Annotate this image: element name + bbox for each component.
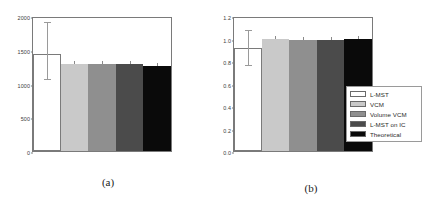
bar-top-tick <box>303 37 304 40</box>
legend-item[interactable]: L-MST <box>350 89 419 99</box>
error-bar-cap <box>44 79 51 80</box>
legend-swatch-icon <box>350 131 366 137</box>
y-axis-tick-mark <box>232 85 235 86</box>
y-axis-tick-label: 0.2 <box>223 128 231 134</box>
legend-swatch-icon <box>350 121 366 127</box>
panel-a: 0500100015002000 (a) <box>2 0 202 220</box>
plot-area-a: 0500100015002000 <box>32 17 172 152</box>
bar-top-tick <box>331 37 332 40</box>
y-axis-tick-label: 1500 <box>18 49 30 55</box>
legend-item-label: VCM <box>370 101 384 108</box>
error-bar-cap <box>245 30 252 31</box>
panel-b-caption: (b) <box>211 182 411 194</box>
error-bar-cap <box>44 22 51 23</box>
legend-swatch-icon <box>350 111 366 117</box>
bar-top-tick <box>74 61 75 64</box>
legend-item[interactable]: L-MST on IC <box>350 119 419 129</box>
y-axis-tick-mark <box>232 18 235 19</box>
y-axis-tick-mark <box>31 85 34 86</box>
bar-top-tick <box>102 61 103 64</box>
y-axis-tick-label: 1000 <box>18 83 30 89</box>
bar-top-tick <box>358 36 359 39</box>
y-axis-tick-mark <box>31 51 34 52</box>
y-axis-tick-mark <box>232 108 235 109</box>
bar <box>289 40 317 151</box>
error-bar-cap <box>245 65 252 66</box>
legend-item[interactable]: Volume VCM <box>350 109 419 119</box>
legend-item-label: Theoretical <box>370 131 401 138</box>
bar-group-a <box>33 18 171 151</box>
y-axis-tick-label: 0.4 <box>223 105 231 111</box>
bar <box>88 64 116 151</box>
panel-a-caption: (a) <box>8 176 208 188</box>
y-axis-tick-mark <box>232 130 235 131</box>
y-axis-tick-mark <box>31 18 34 19</box>
bar <box>143 66 171 151</box>
y-axis-tick-label: 0.6 <box>223 83 231 89</box>
y-axis-tick-label: 500 <box>21 116 30 122</box>
legend-swatch-icon <box>350 91 366 97</box>
error-bar <box>47 23 48 80</box>
bar-top-tick <box>157 63 158 66</box>
y-axis-tick-mark <box>31 119 34 120</box>
y-axis-tick-label: 0.8 <box>223 60 231 66</box>
figure-container: 0500100015002000 (a) 0.00.20.40.60.81.01… <box>0 0 427 220</box>
y-axis-tick-mark <box>232 153 235 154</box>
bar <box>262 39 290 151</box>
legend-item-label: L-MST <box>370 91 389 98</box>
legend-item-label: Volume VCM <box>370 111 407 118</box>
y-axis-tick-label: 1.0 <box>223 38 231 44</box>
y-axis-tick-mark <box>31 153 34 154</box>
y-axis-tick-label: 2000 <box>18 15 30 21</box>
bar-top-tick <box>130 61 131 64</box>
legend: L-MSTVCMVolume VCML-MST on ICTheoretical <box>346 86 422 142</box>
legend-item-label: L-MST on IC <box>370 121 406 128</box>
error-bar <box>248 31 249 66</box>
y-axis-tick-label: 1.2 <box>223 15 231 21</box>
legend-item[interactable]: Theoretical <box>350 129 419 139</box>
bar <box>61 64 89 151</box>
bar <box>116 64 144 151</box>
y-axis-tick-label: 0.0 <box>223 150 231 156</box>
legend-swatch-icon <box>350 101 366 107</box>
bar-top-tick <box>275 36 276 39</box>
y-axis-tick-mark <box>232 63 235 64</box>
bar <box>317 40 345 151</box>
legend-item[interactable]: VCM <box>350 99 419 109</box>
y-axis-tick-mark <box>232 40 235 41</box>
